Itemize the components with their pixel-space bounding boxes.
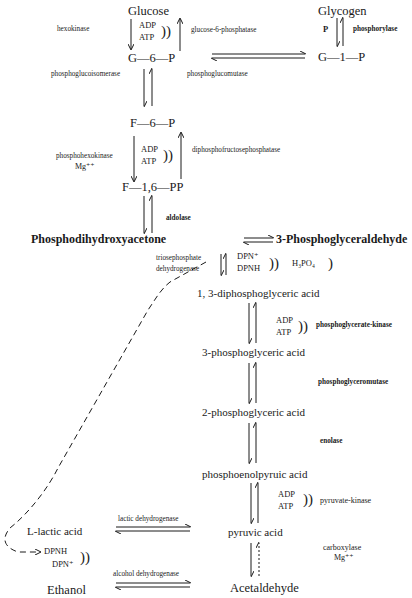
node-glucose: Glucose <box>128 5 169 18</box>
node-lactate: L-lactic acid <box>27 526 82 537</box>
enzyme-alcohol-dehydrogenase: alcohol dehydrogenase <box>113 571 179 578</box>
cofactor-atp: ATP <box>141 157 156 166</box>
cofactor-dpnh: DPNH <box>44 547 67 556</box>
node-bpg13: 1, 3-diphosphoglyceric acid <box>197 288 320 299</box>
cofactor-phosphate: P <box>323 25 328 34</box>
cofactor-dpn-plus: DPN⁺ <box>52 560 74 569</box>
cofactor-adp: ADP <box>139 21 156 30</box>
node-ethanol: Ethanol <box>47 584 86 597</box>
brace-icon: )) <box>80 550 90 565</box>
node-f6p: F—6—P <box>130 117 175 130</box>
node-g3p: 3-Phosphoglyceraldehyde <box>276 233 407 245</box>
node-pyruvate: pyruvic acid <box>228 527 283 538</box>
node-acetaldehyde: Acetaldehyde <box>230 582 299 595</box>
enzyme-phosphoglyceromutase: phosphoglyceromutase <box>318 379 388 386</box>
cofactor-atp: ATP <box>276 328 291 337</box>
cofactor-atp: ATP <box>139 33 154 42</box>
enzyme-enolase: enolase <box>320 438 342 445</box>
enzyme-carboxylase-cofactor: Mg⁺⁺ <box>334 554 354 562</box>
brace-icon: )) <box>163 148 173 163</box>
node-f16pp: F—1,6—PP <box>122 181 183 194</box>
brace-icon: )) <box>303 492 313 507</box>
node-g6p: G—6—P <box>128 52 175 65</box>
node-pg3: 3-phosphoglyceric acid <box>202 347 305 358</box>
enzyme-phosphoglucomutase: phosphoglucomutase <box>187 71 248 78</box>
enzyme-diphosphofructosephosphatase: diphosphofructosephosphatase <box>192 147 280 154</box>
enzyme-phosphohexokinase: phosphohexokinase <box>56 153 113 160</box>
node-pep: phosphoenolpyruic acid <box>202 469 307 480</box>
enzyme-triosephosphate-dehydrogenase-line1: triosephosphate <box>156 255 201 262</box>
enzyme-triosephosphate-dehydrogenase-line2: dehydrogenase <box>156 266 199 273</box>
enzyme-lactic-dehydrogenase: lactic dehydrogenase <box>118 516 178 523</box>
enzyme-hexokinase: hexokinase <box>57 26 89 33</box>
cofactor-atp: ATP <box>278 502 293 511</box>
node-pg2: 2-phosphoglyceric acid <box>202 407 305 418</box>
brace-icon: ) <box>328 256 333 271</box>
brace-icon: )) <box>298 319 308 334</box>
brace-icon: )) <box>269 256 279 271</box>
brace-icon: )) <box>161 24 171 39</box>
pathway-arrows <box>0 0 412 598</box>
cofactor-adp: ADP <box>278 490 295 499</box>
enzyme-phosphohexokinase-cofactor: Mg⁺⁺ <box>75 163 95 171</box>
node-glycogen: Glycogen <box>318 5 367 18</box>
enzyme-phosphoglycerate-kinase: phosphoglycerate-kinase <box>316 322 392 329</box>
enzyme-phosphorylase: phosphorylase <box>353 26 397 33</box>
cofactor-h3po4: H₃PO₄ <box>292 259 315 268</box>
enzyme-glucose-6-phosphatase: glucose-6-phosphatase <box>191 27 256 34</box>
enzyme-aldolase: aldolase <box>166 215 191 222</box>
cofactor-dpn-plus: DPN⁺ <box>237 252 259 261</box>
node-dhap: Phosphodihydroxyacetone <box>31 233 166 245</box>
enzyme-pyruvate-kinase: pyruvate-kinase <box>320 497 371 505</box>
cofactor-dpnh: DPNH <box>237 264 260 273</box>
cofactor-adp: ADP <box>276 316 293 325</box>
cofactor-adp: ADP <box>141 145 158 154</box>
enzyme-phosphoglucoisomerase: phosphoglucoisomerase <box>51 71 120 78</box>
node-g1p: G—1—P <box>318 51 365 64</box>
enzyme-carboxylase: carboxylase <box>323 544 361 552</box>
